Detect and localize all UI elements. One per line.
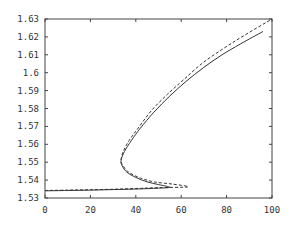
plot-series	[45, 19, 272, 191]
y-tick-label: 1.59	[17, 86, 39, 96]
y-tick-label: 1.55	[17, 157, 39, 167]
x-tick-label: 80	[221, 205, 232, 215]
y-axis-tick-labels: 1.531.541.551.561.571.581.591.61.611.621…	[17, 14, 39, 203]
y-tick-label: 1.62	[17, 32, 39, 42]
x-tick-label: 20	[85, 205, 96, 215]
y-tick-label: 1.61	[17, 50, 39, 60]
x-axis-tick-labels: 020406080100	[42, 205, 280, 215]
series-dashed-line	[45, 19, 272, 190]
x-tick-label: 60	[176, 205, 187, 215]
x-tick-label: 40	[130, 205, 141, 215]
chart: 1.531.541.551.561.571.581.591.61.611.621…	[0, 0, 292, 225]
y-tick-label: 1.53	[17, 193, 39, 203]
y-tick-label: 1.54	[17, 175, 39, 185]
y-tick-label: 1.63	[17, 14, 39, 24]
series-solid-line	[45, 32, 263, 191]
y-tick-label: 1.58	[17, 104, 39, 114]
x-tick-label: 100	[264, 205, 280, 215]
y-tick-label: 1.6	[23, 68, 39, 78]
x-tick-label: 0	[42, 205, 47, 215]
y-tick-label: 1.57	[17, 121, 39, 131]
y-tick-label: 1.56	[17, 139, 39, 149]
